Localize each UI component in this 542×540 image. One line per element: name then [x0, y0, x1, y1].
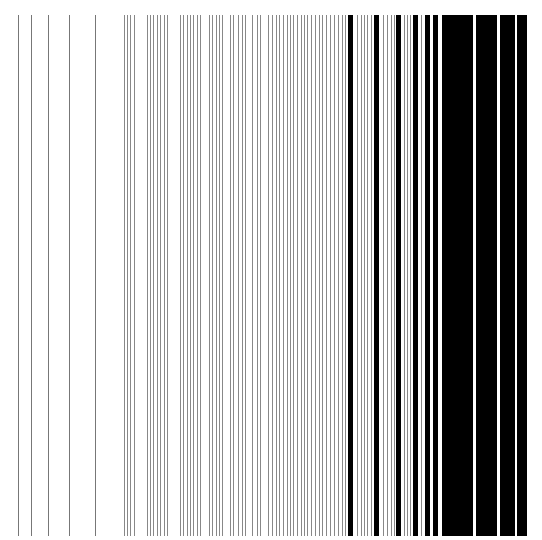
thin-vertical-line [180, 15, 181, 536]
thick-vertical-bar [476, 15, 497, 536]
thin-vertical-line [268, 15, 269, 536]
thick-vertical-bar [396, 15, 401, 536]
thin-vertical-line [371, 15, 372, 536]
thin-vertical-line [18, 15, 19, 536]
thin-vertical-line [364, 15, 365, 536]
thin-vertical-line [134, 15, 135, 536]
thin-vertical-line [287, 15, 288, 536]
thick-vertical-bar [433, 15, 438, 536]
thin-vertical-line [130, 15, 131, 536]
thick-vertical-bar [442, 15, 473, 536]
thin-vertical-line [421, 15, 422, 536]
thin-vertical-line [330, 15, 331, 536]
thin-vertical-line [48, 15, 49, 536]
thin-vertical-line [260, 15, 261, 536]
thin-vertical-line [219, 15, 220, 536]
thin-vertical-line [293, 15, 294, 536]
thin-vertical-line [212, 15, 213, 536]
thick-vertical-bar [374, 15, 379, 536]
thin-vertical-line [387, 15, 388, 536]
thick-vertical-bar [348, 15, 353, 536]
thin-vertical-line [304, 15, 305, 536]
thin-vertical-line [322, 15, 323, 536]
thin-vertical-line [245, 15, 246, 536]
thin-vertical-line [124, 15, 125, 536]
thin-vertical-line [157, 15, 158, 536]
thin-vertical-line [276, 15, 277, 536]
thin-vertical-line [197, 15, 198, 536]
thin-vertical-line [367, 15, 368, 536]
thin-vertical-line [342, 15, 343, 536]
thin-vertical-line [338, 15, 339, 536]
thin-vertical-line [326, 15, 327, 536]
thin-vertical-line [147, 15, 148, 536]
thin-vertical-line [187, 15, 188, 536]
thin-vertical-line [311, 15, 312, 536]
thin-vertical-line [31, 15, 32, 536]
thin-vertical-line [167, 15, 168, 536]
thin-vertical-line [345, 15, 346, 536]
thick-vertical-bar [500, 15, 515, 536]
thin-vertical-line [200, 15, 201, 536]
thin-vertical-line [404, 15, 405, 536]
thin-vertical-line [153, 15, 154, 536]
thin-vertical-line [357, 15, 358, 536]
thin-vertical-line [279, 15, 280, 536]
thick-vertical-bar [425, 15, 430, 536]
thin-vertical-line [334, 15, 335, 536]
thin-vertical-line [272, 15, 273, 536]
thick-vertical-bar [517, 15, 527, 536]
thin-vertical-line [242, 15, 243, 536]
thin-vertical-line [127, 15, 128, 536]
thin-vertical-line [283, 15, 284, 536]
line-pattern-canvas [0, 0, 542, 540]
thin-vertical-line [209, 15, 210, 536]
thin-vertical-line [257, 15, 258, 536]
thin-vertical-line [307, 15, 308, 536]
thin-vertical-line [164, 15, 165, 536]
thin-vertical-line [238, 15, 239, 536]
thin-vertical-line [95, 15, 96, 536]
thin-vertical-line [315, 15, 316, 536]
thin-vertical-line [233, 15, 234, 536]
thin-vertical-line [183, 15, 184, 536]
thin-vertical-line [301, 15, 302, 536]
thin-vertical-line [190, 15, 191, 536]
thick-vertical-bar [413, 15, 418, 536]
thin-vertical-line [193, 15, 194, 536]
thin-vertical-line [383, 15, 384, 536]
thin-vertical-line [394, 15, 395, 536]
thin-vertical-line [410, 15, 411, 536]
thin-vertical-line [230, 15, 231, 536]
thin-vertical-line [319, 15, 320, 536]
thin-vertical-line [150, 15, 151, 536]
thin-vertical-line [160, 15, 161, 536]
thin-vertical-line [222, 15, 223, 536]
thin-vertical-line [297, 15, 298, 536]
thin-vertical-line [361, 15, 362, 536]
thin-vertical-line [216, 15, 217, 536]
thin-vertical-line [391, 15, 392, 536]
thin-vertical-line [407, 15, 408, 536]
thin-vertical-line [252, 15, 253, 536]
thin-vertical-line [290, 15, 291, 536]
thin-vertical-line [69, 15, 70, 536]
